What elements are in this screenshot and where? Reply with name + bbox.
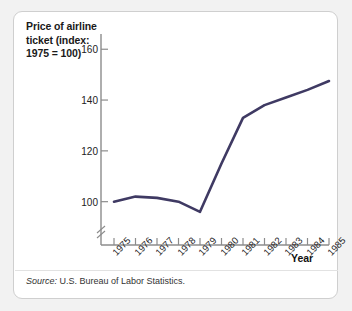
price-index-line: [114, 81, 329, 212]
x-axis-title: Year: [291, 252, 313, 264]
y-axis-tick-label: 120: [64, 145, 98, 156]
source-label: Source:: [26, 276, 57, 286]
y-axis-ticks: [101, 49, 108, 201]
y-axis-tick-label: 100: [64, 196, 98, 207]
y-axis-tick-label: 160: [64, 44, 98, 55]
source-text: U.S. Bureau of Labor Statistics.: [57, 276, 185, 286]
y-axis-labels: 100120140160: [56, 12, 98, 298]
y-axis-tick-label: 140: [64, 95, 98, 106]
figure-panel: Price of airline ticket (index: 1975 = 1…: [13, 11, 338, 299]
source-note: Source: U.S. Bureau of Labor Statistics.: [26, 276, 185, 286]
footer-divider: [15, 270, 338, 271]
